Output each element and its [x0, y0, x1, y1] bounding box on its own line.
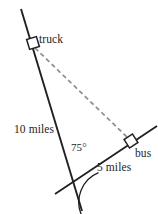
figure-canvas	[0, 0, 158, 214]
geometry-figure: truck bus 10 miles 5 miles 75°	[0, 0, 158, 214]
bus-road-line	[55, 126, 157, 194]
bus-label: bus	[135, 148, 151, 160]
truck-marker	[27, 37, 40, 50]
bus-distance-label: 5 miles	[97, 162, 131, 174]
truck-label: truck	[39, 34, 63, 46]
truck-distance-label: 10 miles	[14, 124, 54, 136]
angle-measure-label: 75°	[71, 142, 87, 153]
